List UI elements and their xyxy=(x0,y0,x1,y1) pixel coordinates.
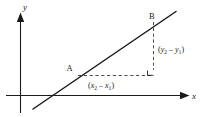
slope-line xyxy=(33,12,176,110)
y-axis-arrowhead xyxy=(17,13,24,23)
rise-annotation: (y2 – y1) xyxy=(158,45,184,55)
diagram-canvas: y x A B (y2 – y1) (x2 – x1) xyxy=(0,0,204,117)
point-label-a: A xyxy=(67,63,74,73)
rise-minus: – xyxy=(167,45,175,54)
run-annotation: (x2 – x1) xyxy=(88,81,114,91)
rise-close-paren: ) xyxy=(181,45,184,54)
x-axis-label: x xyxy=(191,91,196,101)
run-close-paren: ) xyxy=(111,81,114,90)
right-angle-marker xyxy=(148,71,153,76)
slope-diagram-figure: y x A B (y2 – y1) (x2 – x1) xyxy=(0,0,204,117)
point-label-b: B xyxy=(149,11,155,21)
x-axis xyxy=(6,92,190,99)
run-minus: – xyxy=(97,81,105,90)
y-axis xyxy=(17,13,24,114)
x-axis-arrowhead xyxy=(180,92,190,99)
y-axis-label: y xyxy=(22,2,27,12)
